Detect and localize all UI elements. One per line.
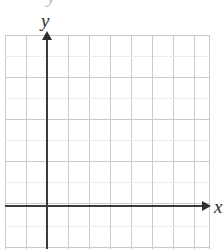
y-axis-arrow-icon (42, 31, 52, 40)
gridline-vertical (194, 35, 195, 249)
gridline-horizontal-dotted (5, 56, 210, 57)
grid-area (5, 35, 210, 249)
partial-glyph-artifact: y (47, 0, 55, 6)
gridline-vertical (26, 35, 27, 249)
coordinate-grid-figure: y y x (0, 0, 223, 249)
x-axis (5, 205, 206, 207)
gridline-horizontal (5, 203, 210, 204)
gridline-vertical (152, 35, 153, 249)
y-axis-label: y (41, 11, 49, 30)
gridline-vertical (89, 35, 90, 249)
gridline-horizontal-dotted (5, 98, 210, 99)
y-axis (46, 38, 48, 249)
gridline-horizontal (5, 35, 210, 36)
gridline-horizontal-dotted (5, 226, 210, 227)
gridline-vertical (209, 35, 210, 249)
x-axis-arrow-icon (202, 201, 211, 211)
gridline-vertical (5, 35, 6, 249)
gridline-vertical (110, 35, 111, 249)
gridline-horizontal (5, 161, 210, 162)
gridline-horizontal-dotted (5, 140, 210, 141)
gridline-horizontal (5, 247, 210, 248)
gridline-vertical (131, 35, 132, 249)
x-axis-label: x (214, 197, 222, 216)
gridline-vertical (68, 35, 69, 249)
gridline-horizontal (5, 119, 210, 120)
gridline-vertical (173, 35, 174, 249)
gridline-horizontal-dotted (5, 182, 210, 183)
gridline-horizontal (5, 77, 210, 78)
